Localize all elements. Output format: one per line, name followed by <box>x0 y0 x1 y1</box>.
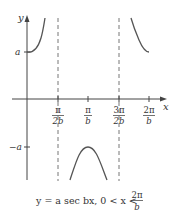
curve-right-branch <box>131 18 149 52</box>
svg-text:2b: 2b <box>52 116 64 126</box>
x-tick-label-pi-b: π b <box>84 105 92 126</box>
svg-text:π: π <box>85 105 91 115</box>
svg-text:3π: 3π <box>114 105 125 115</box>
caption-frac-num: 2π <box>132 190 143 200</box>
y-axis-arrow-icon <box>25 15 30 22</box>
curve-left-branch <box>27 18 45 52</box>
x-tick-label-3pi-2b: 3π 2b <box>113 105 125 126</box>
y-tick-label-neg-a: −a <box>9 142 22 152</box>
svg-text:2b: 2b <box>113 116 125 126</box>
curve-middle-branch <box>70 147 107 180</box>
x-axis-label: x <box>163 101 169 112</box>
svg-text:b: b <box>146 116 151 126</box>
x-tick-label-pi-2b: π 2b <box>52 105 64 126</box>
svg-text:2π: 2π <box>144 105 155 115</box>
caption: y = a sec bx, 0 < x < 2π b <box>35 190 143 211</box>
x-tick-label-2pi-b: 2π b <box>143 105 155 126</box>
y-axis-label: y <box>17 12 24 23</box>
y-tick-label-a: a <box>15 47 20 57</box>
caption-frac-den: b <box>134 202 139 211</box>
caption-text: y = a sec bx, 0 < x < <box>35 195 137 206</box>
secant-graph: y x a −a π 2b π b 3π 2b 2π b y = a sec b… <box>0 0 182 211</box>
svg-text:π: π <box>55 105 61 115</box>
svg-text:b: b <box>85 116 90 126</box>
